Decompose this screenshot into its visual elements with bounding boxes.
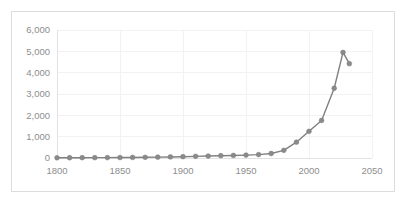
series-data-point xyxy=(206,154,211,159)
y-axis-tick-label: 4,000 xyxy=(26,67,50,78)
series-data-point xyxy=(347,61,352,66)
x-axis-tick-label: 1950 xyxy=(235,165,256,176)
series-data-point xyxy=(332,86,337,91)
series-data-point xyxy=(281,148,286,153)
series-data-point xyxy=(218,153,223,158)
x-axis-tick-label: 2000 xyxy=(298,165,319,176)
grid-lines xyxy=(57,30,372,158)
series-data-point xyxy=(256,152,261,157)
y-axis-tick-label: 6,000 xyxy=(26,24,50,35)
series-data-point xyxy=(307,129,312,134)
series-data-point xyxy=(193,154,198,159)
x-axis-tick-label: 2050 xyxy=(361,165,382,176)
series-data-point xyxy=(118,155,123,160)
series-data-point xyxy=(130,155,135,160)
x-axis-tick-label: 1850 xyxy=(109,165,130,176)
series-data-point xyxy=(80,155,85,160)
series-data-point xyxy=(231,153,236,158)
y-axis-tick-label: 5,000 xyxy=(26,46,50,57)
series-data-point xyxy=(92,155,97,160)
series-data-point xyxy=(181,154,186,159)
x-axis-tick-label: 1800 xyxy=(46,165,67,176)
line-chart: 01,0002,0003,0004,0005,0006,000 18001850… xyxy=(0,0,407,208)
x-axis-tick-labels: 180018501900195020002050 xyxy=(46,165,382,176)
series-data-point xyxy=(105,155,110,160)
y-axis-tick-label: 3,000 xyxy=(26,88,50,99)
series-data-point xyxy=(155,155,160,160)
series-marker-group xyxy=(55,50,352,160)
y-axis-tick-label: 0 xyxy=(45,152,50,163)
series-data-point xyxy=(67,155,72,160)
series-data-point xyxy=(269,151,274,156)
series-data-point xyxy=(143,155,148,160)
series-data-point xyxy=(55,155,60,160)
y-axis-tick-label: 2,000 xyxy=(26,110,50,121)
series-data-point xyxy=(341,50,346,55)
y-axis-tick-labels: 01,0002,0003,0004,0005,0006,000 xyxy=(26,24,50,163)
x-axis-tick-label: 1900 xyxy=(172,165,193,176)
series-data-point xyxy=(168,155,173,160)
series-data-point xyxy=(294,140,299,145)
series-data-point xyxy=(319,118,324,123)
series-path-group xyxy=(57,52,349,157)
series-line-path xyxy=(57,52,349,157)
y-axis-tick-label: 1,000 xyxy=(26,131,50,142)
chart-stage: 01,0002,0003,0004,0005,0006,000 18001850… xyxy=(0,0,407,208)
series-data-point xyxy=(244,153,249,158)
